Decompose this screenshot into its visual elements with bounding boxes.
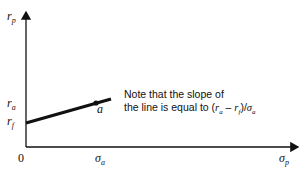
ra-tick-label: ra [7, 97, 16, 112]
note-line-1: Note that the slope of [124, 88, 256, 101]
note-line-2: the line is equal to (ra – rf)/σa [124, 101, 256, 119]
diagram-canvas [0, 0, 306, 174]
slope-note: Note that the slope of the line is equal… [124, 88, 256, 119]
y-axis-label: rp [7, 10, 16, 25]
rf-tick-label: rf [7, 115, 14, 130]
origin-label: 0 [18, 152, 24, 164]
point-a-label: a [97, 103, 103, 115]
x-axis-label: σp [279, 152, 289, 167]
sigma-a-tick-label: σa [95, 152, 105, 167]
